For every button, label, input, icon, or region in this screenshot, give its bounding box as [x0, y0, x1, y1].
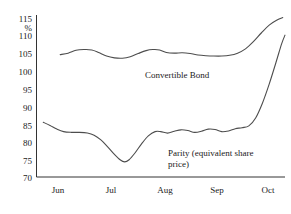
x-tick-label-oct: Oct	[250, 186, 286, 195]
y-tick-label-100: 100	[10, 68, 32, 77]
parity-label-line-2: price)	[168, 159, 189, 170]
y-tick-label-70: 70	[10, 174, 32, 183]
chart-plot-area	[0, 0, 291, 214]
x-tick-label-sep: Sep	[199, 186, 235, 195]
y-tick-label-95: 95	[10, 86, 32, 95]
x-tick-label-aug: Aug	[147, 186, 183, 195]
y-tick-label-85: 85	[10, 122, 32, 131]
series-group	[43, 18, 285, 162]
convertible-bond-label: Convertible Bond	[145, 70, 209, 81]
series-line-convertible-bond	[60, 18, 283, 59]
y-tick-label-75: 75	[10, 157, 32, 166]
y-tick-label-90: 90	[10, 104, 32, 113]
x-tick-label-jun: Jun	[40, 186, 76, 195]
y-tick-label-110: 110	[10, 32, 32, 41]
y-tick-label-105: 105	[10, 50, 32, 59]
y-tick-label-115: 115	[10, 15, 32, 24]
y-tick-label-80: 80	[10, 139, 32, 148]
convertible-bond-parity-chart: % 115 110 105 100 95 90 85 80 75 70 Jun …	[0, 0, 291, 214]
x-tick-label-jul: Jul	[93, 186, 129, 195]
parity-label-line-1: Parity (equivalent share	[168, 148, 253, 159]
series-line-parity	[43, 35, 285, 162]
